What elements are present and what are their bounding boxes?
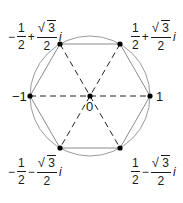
imag-fraction: √ 3 2 — [37, 156, 57, 187]
imag-fraction: √ 3 2 — [151, 156, 171, 187]
operator: + — [28, 31, 35, 43]
imaginary-unit: i — [173, 166, 176, 178]
imag-fraction: √ 3 2 — [37, 21, 57, 52]
label-top-right: 1 2 + √ 3 2 i — [130, 21, 176, 52]
point-one — [147, 93, 152, 98]
sqrt-icon: √ — [38, 155, 45, 170]
label-bottom-right: 1 2 − √ 3 2 i — [130, 156, 176, 187]
label-origin: 0 — [86, 100, 93, 113]
operator: − — [28, 166, 35, 178]
label-bottom-left: − 1 2 − √ 3 2 i — [7, 156, 62, 187]
operator: + — [142, 31, 149, 43]
point-bottom-right — [117, 145, 122, 150]
point-bottom-left — [57, 145, 62, 150]
imaginary-unit: i — [59, 166, 62, 178]
point-top-right — [117, 41, 122, 46]
sign: − — [8, 166, 15, 178]
real-fraction: 1 2 — [131, 22, 140, 51]
point-origin — [87, 93, 92, 98]
label-top-left: − 1 2 + √ 3 2 i — [7, 21, 62, 52]
label-one: 1 — [156, 90, 163, 103]
real-fraction: 1 2 — [17, 157, 26, 186]
sign: − — [8, 31, 15, 43]
sqrt-icon: √ — [152, 20, 159, 35]
point-neg-one — [27, 93, 32, 98]
sqrt-icon: √ — [152, 155, 159, 170]
operator: − — [142, 166, 149, 178]
real-fraction: 1 2 — [131, 157, 140, 186]
imaginary-unit: i — [59, 31, 62, 43]
label-neg-one: −1 — [12, 90, 27, 103]
real-fraction: 1 2 — [17, 22, 26, 51]
sqrt-icon: √ — [38, 20, 45, 35]
imag-fraction: √ 3 2 — [151, 21, 171, 52]
imaginary-unit: i — [173, 31, 176, 43]
